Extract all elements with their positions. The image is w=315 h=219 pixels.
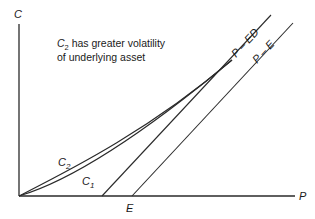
c1-label: C1 bbox=[82, 175, 94, 190]
x-axis-label: P bbox=[299, 190, 307, 202]
c2-curve bbox=[19, 60, 232, 196]
y-axis-label: C bbox=[14, 8, 22, 20]
c2-label: C2 bbox=[58, 156, 71, 171]
option-value-diagram: C P E P – ED P – E C2 C1 C2 has greater … bbox=[0, 0, 315, 219]
strike-price-label: E bbox=[126, 202, 134, 214]
annotation-line-1: C2 has greater volatility bbox=[57, 37, 166, 52]
annotation-line-2: of underlying asset bbox=[57, 51, 145, 63]
c1-curve bbox=[19, 60, 232, 196]
